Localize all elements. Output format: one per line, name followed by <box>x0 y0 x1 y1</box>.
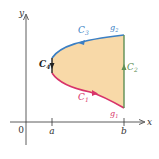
label-c3: C3 <box>78 25 89 36</box>
y-axis-label: y <box>18 8 25 18</box>
label-c2: C2 <box>127 62 138 73</box>
tick-label-a: a <box>49 126 54 136</box>
region-diagram: y x 0 a b C3 g2 C4 C2 C1 g1 <box>0 0 159 159</box>
label-g2: g2 <box>110 23 118 33</box>
origin-label: 0 <box>18 125 24 135</box>
label-c4: C4 <box>39 59 50 70</box>
label-g1: g1 <box>110 109 118 119</box>
x-axis-label: x <box>147 117 152 127</box>
tick-label-b: b <box>121 126 127 136</box>
label-c1: C1 <box>78 92 89 103</box>
